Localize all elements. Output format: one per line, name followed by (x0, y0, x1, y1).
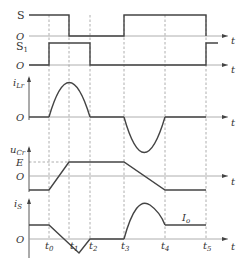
ucr-time-arrow-icon (222, 174, 228, 178)
is-axis-arrow-icon (27, 198, 31, 204)
is-time-arrow-icon (222, 237, 228, 241)
trace-is: iS O Io t t0 t1 t2 t3 t4 t5 (14, 198, 236, 258)
is-origin-label: O (16, 234, 24, 245)
t0-label: t0 (45, 240, 54, 253)
s1-label: S1 (16, 40, 28, 54)
is-t-label: t (231, 241, 236, 252)
s-label: S (17, 9, 25, 22)
s1-waveform (29, 43, 218, 65)
ucr-axis-arrow-icon (27, 146, 31, 152)
s-waveform (29, 15, 206, 36)
s-t-label: t (231, 35, 236, 46)
t4-label: t4 (161, 240, 170, 253)
trace-s: S O t (16, 9, 236, 46)
t1-label: t1 (70, 240, 79, 253)
is-label: iS (14, 198, 22, 211)
trace-ucr: uCr E O t (10, 144, 236, 192)
s1-t-label: t (231, 64, 236, 75)
ucr-label: uCr (10, 144, 26, 157)
ilr-negative-hump (124, 117, 165, 153)
t5-label: t5 (203, 240, 212, 253)
ucr-t-label: t (231, 176, 236, 187)
io-label: Io (181, 212, 190, 225)
ilr-positive-hump (49, 83, 90, 118)
s1-axis-arrow-icon (222, 63, 228, 67)
s-axis-arrow-icon (222, 34, 228, 38)
s1-origin-label: O (16, 60, 24, 71)
ucr-origin-label: O (16, 171, 24, 182)
timing-diagram: S O t S1 O t iLr O t uCr E O t (0, 0, 251, 270)
is-hump (124, 203, 165, 239)
ilr-axis-arrow-icon (27, 76, 31, 82)
ilr-label: iLr (13, 77, 25, 90)
t3-label: t3 (121, 240, 130, 253)
t2-label: t2 (89, 240, 98, 253)
ucr-e-label: E (15, 157, 24, 168)
ilr-time-arrow-icon (222, 115, 228, 119)
ilr-origin-label: O (16, 112, 24, 123)
trace-ilr: iLr O t (13, 76, 236, 153)
ilr-t-label: t (231, 117, 236, 128)
time-marker-lines (29, 15, 206, 240)
